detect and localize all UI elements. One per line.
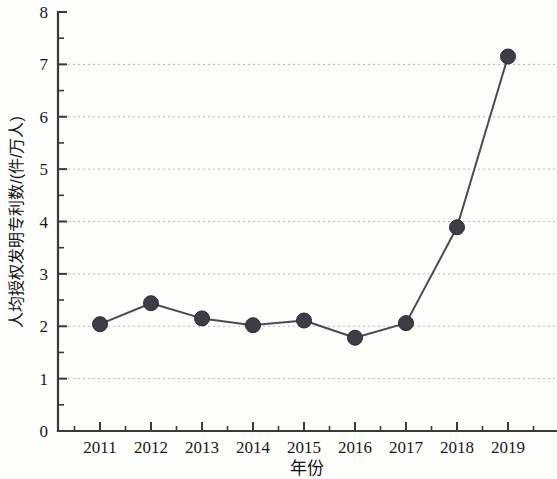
data-point [195, 311, 210, 326]
x-tick-label: 2019 [491, 438, 525, 457]
data-point [501, 49, 516, 64]
x-tick-label: 2016 [338, 438, 372, 457]
x-tick-label: 2013 [185, 438, 219, 457]
line-chart: 012345678 201120122013201420152016201720… [0, 0, 557, 479]
y-tick-label: 5 [40, 160, 49, 179]
y-tick-label: 8 [40, 3, 49, 22]
chart-container: 012345678 201120122013201420152016201720… [0, 0, 557, 479]
x-axis-title: 年份 [290, 459, 324, 478]
chart-background [0, 0, 557, 479]
x-tick-label: 2011 [83, 438, 116, 457]
y-axis-title: 人均授权发明专利数/(件/万人) [8, 116, 25, 328]
data-point [144, 296, 159, 311]
y-tick-label: 1 [40, 370, 49, 389]
x-axis-tick-labels: 201120122013201420152016201720182019 [83, 438, 525, 457]
y-tick-label: 6 [40, 108, 49, 127]
x-tick-label: 2014 [236, 438, 271, 457]
data-point [450, 220, 465, 235]
x-tick-label: 2017 [389, 438, 424, 457]
data-point [93, 317, 108, 332]
x-tick-label: 2012 [134, 438, 168, 457]
data-point [348, 330, 363, 345]
y-tick-label: 7 [40, 55, 49, 74]
x-tick-label: 2018 [440, 438, 474, 457]
x-tick-label: 2015 [287, 438, 321, 457]
y-tick-label: 2 [40, 317, 49, 336]
y-tick-label: 0 [40, 422, 49, 441]
y-tick-label: 4 [40, 213, 49, 232]
y-axis-tick-labels: 012345678 [40, 3, 49, 441]
data-point [297, 313, 312, 328]
data-point [399, 316, 414, 331]
y-tick-label: 3 [40, 265, 49, 284]
data-point [246, 318, 261, 333]
